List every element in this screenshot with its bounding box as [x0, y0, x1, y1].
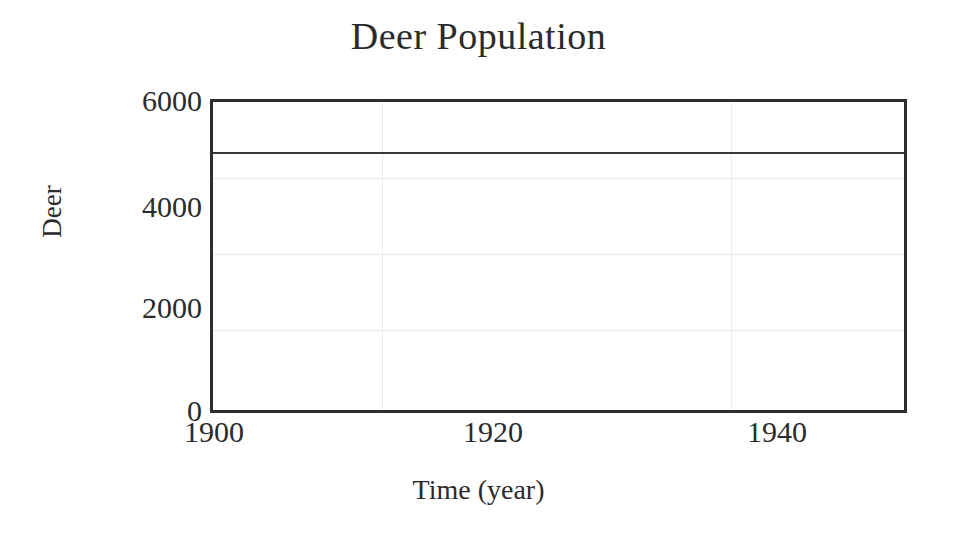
- x-axis-tick-labels: 1900 1920 1940: [0, 416, 957, 456]
- gridline-vertical-right: [731, 102, 732, 410]
- x-tick-1920: 1920: [413, 416, 573, 448]
- y-tick-4000: 4000: [52, 192, 202, 222]
- y-tick-6000: 6000: [52, 86, 202, 116]
- y-tick-2000: 2000: [52, 293, 202, 323]
- chart-container: Deer Population Deer 6000 4000 2000 0 19…: [0, 0, 957, 547]
- y-axis-tick-labels: 6000 4000 2000 0: [50, 0, 202, 420]
- plot-area: [210, 99, 907, 413]
- series-line-deer: [213, 152, 904, 154]
- gridline-horizontal-4500: [213, 178, 904, 179]
- x-tick-1900: 1900: [134, 416, 294, 448]
- x-axis-label: Time (year): [0, 474, 957, 506]
- gridline-horizontal-1600: [213, 330, 904, 331]
- gridline-horizontal-3050: [213, 254, 904, 255]
- gridline-vertical-left: [382, 102, 383, 410]
- x-tick-1940: 1940: [697, 416, 857, 448]
